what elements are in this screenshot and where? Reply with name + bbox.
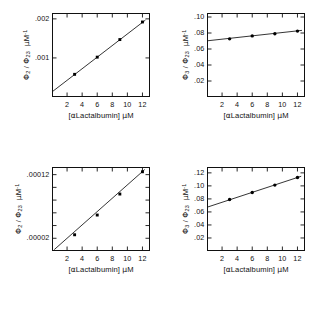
y-tick-label: .06 bbox=[194, 208, 204, 215]
panel-bottom-right: 24681012.02.04.06.08.10.12[αLactalbumin]… bbox=[0, 0, 319, 312]
x-axis-title: [αLactalbumin] μM bbox=[223, 265, 288, 274]
x-tick-label: 6 bbox=[250, 255, 254, 262]
y-tick-label: .08 bbox=[194, 195, 204, 202]
y-axis-title: Φ3 / Φ23 μM-1 bbox=[180, 183, 190, 234]
figure-canvas: 24681012.001.002[αLactalbumin] μMΦ2 / Φ2… bbox=[0, 0, 319, 312]
x-tick-label: 12 bbox=[293, 255, 301, 262]
x-tick-label: 2 bbox=[220, 255, 224, 262]
x-tick-label: 8 bbox=[265, 255, 269, 262]
y-tick-label: .02 bbox=[194, 234, 204, 241]
y-tick-label: .10 bbox=[194, 182, 204, 189]
y-tick-label: .04 bbox=[194, 221, 204, 228]
x-tick-label: 4 bbox=[235, 255, 239, 262]
plot-frame bbox=[207, 167, 305, 251]
y-tick-label: .12 bbox=[194, 169, 204, 176]
x-tick-label: 10 bbox=[278, 255, 286, 262]
